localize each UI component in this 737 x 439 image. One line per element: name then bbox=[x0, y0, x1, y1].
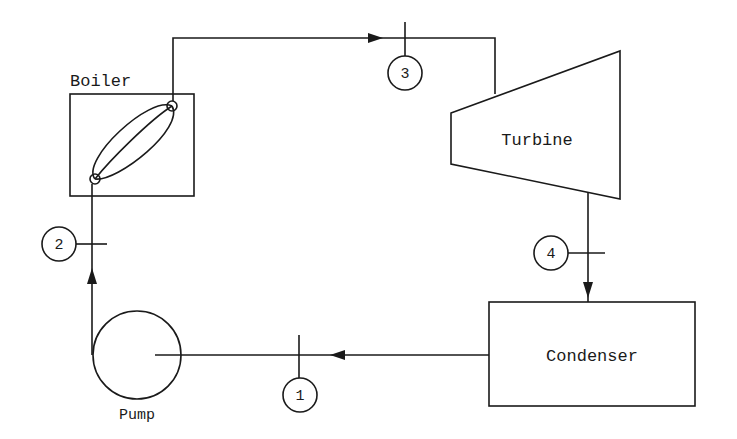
arrow-up-icon bbox=[87, 268, 97, 284]
state-point-1-label: 1 bbox=[295, 388, 304, 405]
pipe-boiler-to-turbine bbox=[173, 22, 495, 101]
state-point-1: 1 bbox=[283, 378, 317, 412]
pump-label: Pump bbox=[119, 407, 155, 424]
boiler-label: Boiler bbox=[70, 72, 131, 91]
state-point-2: 2 bbox=[42, 227, 76, 261]
state-point-3-label: 3 bbox=[400, 66, 409, 83]
state-point-4-label: 4 bbox=[546, 246, 555, 263]
state-point-4: 4 bbox=[534, 236, 568, 270]
condenser: Condenser bbox=[489, 302, 695, 406]
condenser-label: Condenser bbox=[546, 347, 638, 366]
arrow-right-icon bbox=[368, 33, 383, 43]
state-point-2-label: 2 bbox=[54, 237, 63, 254]
arrow-left-icon bbox=[330, 350, 345, 360]
pipe-condenser-to-pump bbox=[155, 335, 489, 378]
turbine: Turbine bbox=[451, 51, 620, 199]
boiler-tube-icon bbox=[90, 101, 177, 184]
boiler: Boiler bbox=[70, 72, 194, 196]
pump: Pump bbox=[93, 311, 181, 424]
arrow-down-icon bbox=[583, 282, 593, 298]
pipe-pump-to-boiler bbox=[76, 184, 107, 355]
state-point-3: 3 bbox=[388, 56, 422, 90]
rankine-cycle-diagram: Boiler 3 Turbine 4 Condenser bbox=[0, 0, 737, 439]
pipe-turbine-to-condenser bbox=[568, 192, 605, 302]
turbine-label: Turbine bbox=[501, 131, 572, 150]
